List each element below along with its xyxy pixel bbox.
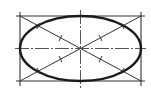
ellipse-construction-diagram xyxy=(0,0,151,95)
